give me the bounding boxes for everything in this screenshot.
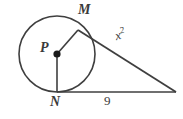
center-point-dot bbox=[53, 50, 60, 57]
vertex-label-n: N bbox=[50, 95, 60, 109]
geometry-canvas bbox=[0, 0, 183, 119]
geometry-figure: M P N x2 9 bbox=[0, 0, 183, 119]
vertex-label-p: P bbox=[40, 41, 49, 55]
radius-segment-PM bbox=[57, 30, 78, 54]
side-length-label-nine: 9 bbox=[104, 94, 111, 107]
vertex-label-m: M bbox=[78, 3, 90, 17]
